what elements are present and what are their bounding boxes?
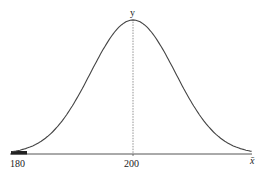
bell-curve	[12, 20, 252, 152]
y-axis-label: y	[130, 8, 135, 18]
x-tick-label-200: 200	[124, 159, 139, 169]
x-axis-label: x̄	[250, 156, 254, 166]
normal-curve-chart	[0, 0, 264, 178]
x-tick-label-180: 180	[10, 159, 25, 169]
